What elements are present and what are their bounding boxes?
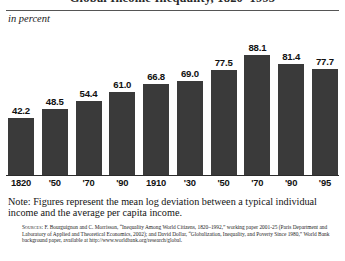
chart-figure: Global Income Inequality, 1820–1995 in p… <box>0 0 345 261</box>
bar-slot: 81.4 <box>278 26 304 175</box>
bar-slot: 61.0 <box>109 26 135 175</box>
bar <box>177 81 203 175</box>
bar-value-label: 81.4 <box>282 52 300 62</box>
chart-title-clipped: Global Income Inequality, 1820–1995 <box>0 0 345 10</box>
page-title: Global Income Inequality, 1820–1995 <box>70 0 276 6</box>
bar-value-label: 48.5 <box>46 97 64 107</box>
x-axis-tick-labels: 1820'50'70'901910'30'50'70'90'95 <box>8 177 338 188</box>
x-tick-label: '70 <box>76 177 102 188</box>
bar-slot: 66.8 <box>143 26 169 175</box>
title-divider <box>6 10 339 11</box>
x-axis-line <box>6 175 339 176</box>
x-tick-label: '95 <box>312 177 338 188</box>
bar-value-label: 61.0 <box>113 80 131 90</box>
x-tick-label: '70 <box>244 177 270 188</box>
bar-value-label: 42.2 <box>12 106 30 116</box>
bar-value-label: 77.7 <box>316 57 334 67</box>
bar-series: 42.248.554.461.066.869.077.588.181.477.7 <box>8 26 338 175</box>
bar-value-label: 69.0 <box>181 69 199 79</box>
bar-slot: 48.5 <box>42 26 68 175</box>
x-tick-label: '50 <box>211 177 237 188</box>
x-tick-label: '90 <box>109 177 135 188</box>
bar <box>278 64 304 175</box>
bar-slot: 42.2 <box>8 26 34 175</box>
chart-note: Note: Figures represent the mean log dev… <box>8 196 330 219</box>
bar-slot: 77.5 <box>211 26 237 175</box>
bar-value-label: 88.1 <box>248 43 266 53</box>
bar <box>312 69 338 175</box>
x-tick-label: 1820 <box>8 177 34 188</box>
bar <box>143 84 169 175</box>
bar <box>244 55 270 175</box>
bar <box>42 109 68 175</box>
bar <box>8 118 34 175</box>
plot-area: 42.248.554.461.066.869.077.588.181.477.7 <box>8 26 338 175</box>
bar <box>76 101 102 175</box>
bar-slot: 54.4 <box>76 26 102 175</box>
sources-text: F. Bourguignon and C. Morrisson, “Inequa… <box>22 224 329 243</box>
x-tick-label: 1910 <box>143 177 169 188</box>
sources-label: Sources: <box>22 224 43 230</box>
bar-value-label: 77.5 <box>215 58 233 68</box>
bar-value-label: 66.8 <box>147 72 165 82</box>
bar-slot: 69.0 <box>177 26 203 175</box>
bar <box>211 70 237 175</box>
chart-sources: Sources: F. Bourguignon and C. Morrisson… <box>22 224 334 244</box>
bar-slot: 77.7 <box>312 26 338 175</box>
x-tick-label: '90 <box>278 177 304 188</box>
bar <box>109 92 135 175</box>
x-tick-label: '50 <box>42 177 68 188</box>
bar-slot: 88.1 <box>244 26 270 175</box>
x-tick-label: '30 <box>177 177 203 188</box>
bar-value-label: 54.4 <box>80 89 98 99</box>
chart-subtitle: in percent <box>8 13 50 24</box>
